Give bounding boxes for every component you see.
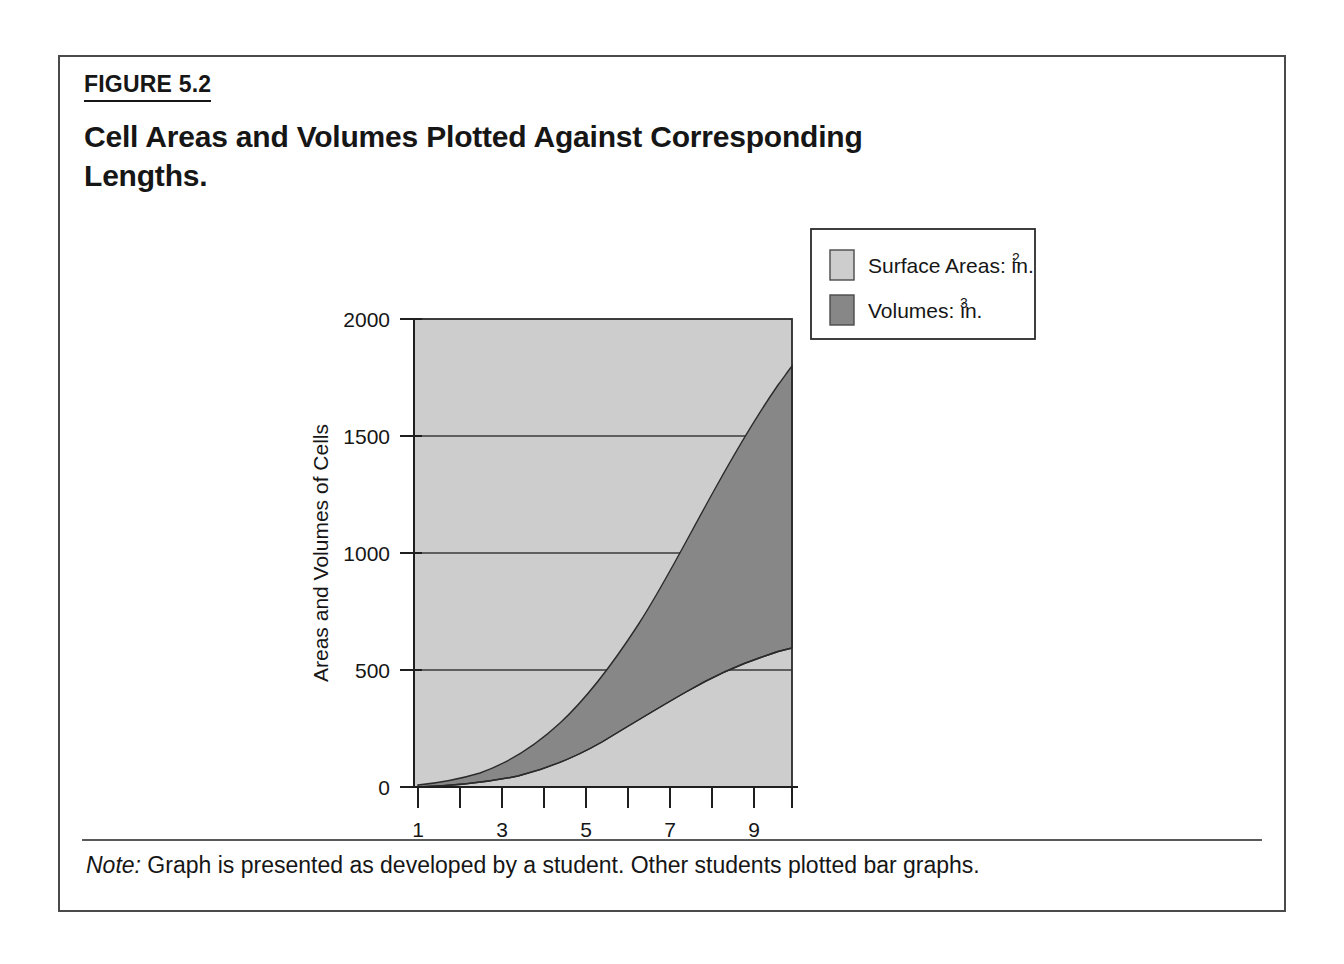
figure-title: Cell Areas and Volumes Plotted Against C… xyxy=(84,118,984,195)
figure-note-label: Note: xyxy=(86,852,141,878)
y-axis-title: Areas and Volumes of Cells xyxy=(309,424,332,682)
legend-label-surface-areas: Surface Areas: in. xyxy=(868,254,1034,277)
figure-number: FIGURE 5.2 xyxy=(84,71,211,102)
x-axis-tick-labels: 1 3 5 7 9 xyxy=(412,818,760,841)
y-ticklabel-500: 500 xyxy=(355,659,390,682)
legend-exponent-surface-areas: 2 xyxy=(1012,250,1020,266)
note-separator xyxy=(82,839,1262,841)
y-ticklabel-1500: 1500 xyxy=(343,425,390,448)
y-ticklabel-0: 0 xyxy=(378,776,390,799)
x-ticklabel-1: 1 xyxy=(412,818,424,841)
chart-svg: 2000 1500 1000 500 0 1 xyxy=(60,207,1284,847)
legend-swatch-volumes[interactable] xyxy=(830,295,854,325)
figure-frame: FIGURE 5.2 Cell Areas and Volumes Plotte… xyxy=(58,55,1286,912)
chart-legend: Surface Areas: in. 2 Volumes: in. 3 xyxy=(811,229,1035,339)
figure-note-text: Graph is presented as developed by a stu… xyxy=(141,852,980,878)
y-axis-tick-labels: 2000 1500 1000 500 0 xyxy=(343,308,390,799)
x-ticklabel-7: 7 xyxy=(664,818,676,841)
figure-header: FIGURE 5.2 Cell Areas and Volumes Plotte… xyxy=(84,71,1260,195)
y-ticklabel-2000: 2000 xyxy=(343,308,390,331)
figure-note: Note: Graph is presented as developed by… xyxy=(86,850,1260,881)
legend-exponent-volumes: 3 xyxy=(960,295,968,311)
y-ticklabel-1000: 1000 xyxy=(343,542,390,565)
x-ticklabel-3: 3 xyxy=(496,818,508,841)
x-axis-ticks xyxy=(418,787,792,808)
x-ticklabel-9: 9 xyxy=(748,818,760,841)
x-ticklabel-5: 5 xyxy=(580,818,592,841)
legend-swatch-surface-areas[interactable] xyxy=(830,250,854,280)
chart-area: 2000 1500 1000 500 0 1 xyxy=(60,207,1284,847)
